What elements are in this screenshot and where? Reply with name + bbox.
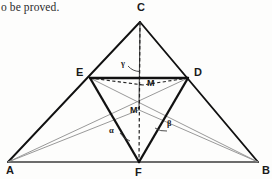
label-A: A [6,164,14,176]
geometry-svg: A B C D E F M M' γ α β [0,0,272,179]
label-alpha: α [109,125,114,135]
label-E: E [76,66,83,78]
label-B: B [262,164,270,176]
figure-root: o be proved. [0,0,272,179]
label-D: D [194,66,202,78]
label-beta: β [167,118,172,128]
label-M: M [147,78,155,88]
label-C: C [137,1,145,13]
label-F: F [135,166,142,178]
segment-D-F [139,78,188,162]
cevian-group-light [8,78,258,162]
gamma-arc [128,66,140,72]
outer-triangle [8,22,258,162]
segment-B-Mprime [139,110,258,162]
label-gamma: γ [120,58,125,68]
segment-A-C [8,22,140,162]
label-M-prime: M' [130,105,140,115]
vertex-label-group: A B C D E F M M' [6,1,270,178]
segment-A-Mprime [8,110,139,162]
cevian-group-C [139,22,140,162]
